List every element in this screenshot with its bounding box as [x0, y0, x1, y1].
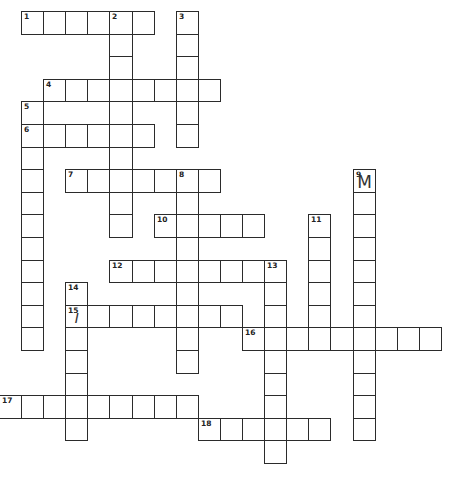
crossword-cell[interactable] — [353, 214, 376, 238]
crossword-cell[interactable] — [308, 305, 331, 328]
crossword-cell[interactable] — [176, 101, 199, 125]
crossword-cell[interactable] — [109, 305, 133, 328]
crossword-cell[interactable] — [87, 11, 110, 35]
crossword-cell[interactable] — [264, 282, 287, 306]
crossword-cell[interactable] — [65, 11, 88, 35]
crossword-cell[interactable] — [21, 395, 44, 419]
crossword-cell[interactable] — [176, 260, 199, 283]
crossword-cell[interactable] — [176, 192, 199, 215]
crossword-cell[interactable] — [176, 124, 199, 148]
crossword-cell[interactable] — [109, 169, 133, 193]
crossword-cell[interactable] — [198, 260, 221, 283]
crossword-cell[interactable] — [242, 214, 265, 238]
crossword-cell[interactable] — [176, 214, 199, 238]
crossword-cell[interactable]: 1 — [21, 11, 44, 35]
crossword-cell[interactable]: 12 — [109, 260, 133, 283]
crossword-cell[interactable] — [308, 282, 331, 306]
crossword-cell[interactable] — [220, 260, 243, 283]
crossword-cell[interactable] — [264, 327, 287, 351]
crossword-cell[interactable] — [21, 305, 44, 328]
crossword-cell[interactable] — [419, 327, 442, 351]
crossword-cell[interactable] — [43, 395, 66, 419]
crossword-cell[interactable] — [353, 260, 376, 283]
crossword-cell[interactable] — [21, 169, 44, 193]
crossword-cell[interactable] — [220, 214, 243, 238]
crossword-cell[interactable] — [154, 169, 177, 193]
crossword-cell[interactable] — [109, 101, 133, 125]
crossword-cell[interactable] — [353, 327, 376, 351]
crossword-cell[interactable] — [21, 327, 44, 351]
crossword-cell[interactable] — [176, 395, 199, 419]
crossword-cell[interactable]: 2 — [109, 11, 133, 35]
crossword-cell[interactable]: 7 — [65, 169, 88, 193]
crossword-cell[interactable] — [176, 282, 199, 306]
crossword-cell[interactable]: 11 — [308, 214, 331, 238]
crossword-cell[interactable] — [21, 260, 44, 283]
crossword-cell[interactable]: 6 — [21, 124, 44, 148]
crossword-cell[interactable] — [43, 11, 66, 35]
crossword-cell[interactable] — [109, 56, 133, 80]
crossword-cell[interactable] — [65, 373, 88, 396]
crossword-cell[interactable] — [21, 192, 44, 215]
crossword-cell[interactable]: 8 — [176, 169, 199, 193]
crossword-cell[interactable] — [87, 79, 110, 102]
crossword-cell[interactable]: 3 — [176, 11, 199, 35]
crossword-cell[interactable] — [264, 305, 287, 328]
crossword-cell[interactable] — [21, 237, 44, 261]
crossword-cell[interactable] — [375, 327, 398, 351]
crossword-cell[interactable] — [154, 79, 177, 102]
crossword-cell[interactable] — [353, 373, 376, 396]
crossword-cell[interactable] — [109, 214, 133, 238]
crossword-cell[interactable] — [308, 327, 331, 351]
crossword-cell[interactable] — [132, 169, 155, 193]
crossword-cell[interactable] — [286, 418, 309, 441]
crossword-cell[interactable] — [132, 124, 155, 148]
crossword-cell[interactable] — [87, 169, 110, 193]
crossword-cell[interactable] — [176, 56, 199, 80]
crossword-cell[interactable] — [242, 418, 265, 441]
crossword-cell[interactable] — [264, 418, 287, 441]
crossword-cell[interactable] — [353, 192, 376, 215]
crossword-cell[interactable] — [220, 418, 243, 441]
crossword-cell[interactable] — [109, 79, 133, 102]
crossword-cell[interactable] — [109, 124, 133, 148]
crossword-cell[interactable] — [286, 327, 309, 351]
crossword-cell[interactable] — [21, 147, 44, 170]
crossword-cell[interactable] — [65, 350, 88, 374]
crossword-cell[interactable] — [264, 350, 287, 374]
crossword-cell[interactable]: 4 — [43, 79, 66, 102]
crossword-cell[interactable] — [65, 124, 88, 148]
crossword-cell[interactable] — [65, 327, 88, 351]
crossword-cell[interactable] — [198, 169, 221, 193]
crossword-cell[interactable] — [308, 237, 331, 261]
crossword-cell[interactable] — [109, 192, 133, 215]
crossword-cell[interactable] — [65, 395, 88, 419]
crossword-cell[interactable] — [397, 327, 420, 351]
crossword-cell[interactable]: 17 — [0, 395, 22, 419]
crossword-cell[interactable] — [308, 418, 331, 441]
crossword-cell[interactable] — [176, 350, 199, 374]
crossword-cell[interactable] — [330, 327, 354, 351]
crossword-cell[interactable] — [264, 373, 287, 396]
crossword-cell[interactable] — [176, 237, 199, 261]
crossword-cell[interactable] — [242, 260, 265, 283]
crossword-cell[interactable] — [154, 395, 177, 419]
crossword-cell[interactable] — [132, 260, 155, 283]
crossword-cell[interactable]: 18 — [198, 418, 221, 441]
crossword-cell[interactable] — [176, 79, 199, 102]
crossword-cell[interactable] — [109, 34, 133, 57]
crossword-cell[interactable] — [176, 305, 199, 328]
crossword-cell[interactable] — [65, 418, 88, 441]
crossword-cell[interactable]: 13 — [264, 260, 287, 283]
crossword-cell[interactable] — [87, 395, 110, 419]
crossword-cell[interactable]: 9M — [353, 169, 376, 193]
crossword-cell[interactable] — [132, 305, 155, 328]
crossword-cell[interactable] — [308, 260, 331, 283]
crossword-cell[interactable] — [132, 395, 155, 419]
crossword-cell[interactable] — [65, 79, 88, 102]
crossword-cell[interactable] — [353, 418, 376, 441]
crossword-cell[interactable] — [132, 79, 155, 102]
crossword-cell[interactable]: 10 — [154, 214, 177, 238]
crossword-cell[interactable] — [353, 305, 376, 328]
crossword-cell[interactable]: 14 — [65, 282, 88, 306]
